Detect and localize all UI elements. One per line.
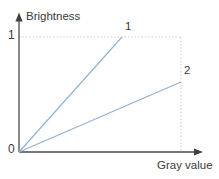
brightness-transfer-function-chart: Brightness Gray value 1 0 1 2 — [0, 0, 219, 179]
series-label-2: 2 — [184, 65, 190, 77]
arrow-up-icon — [15, 13, 22, 22]
series-line-1 — [19, 37, 122, 152]
series-label-1: 1 — [125, 21, 131, 33]
chart-canvas — [0, 0, 219, 179]
arrow-right-icon — [194, 148, 203, 155]
x-axis-label: Gray value — [157, 160, 213, 172]
y-tick-label-0: 0 — [8, 143, 15, 155]
y-tick-label-1: 1 — [8, 29, 15, 41]
series-line-2 — [19, 82, 181, 152]
y-axis-label: Brightness — [26, 11, 80, 23]
